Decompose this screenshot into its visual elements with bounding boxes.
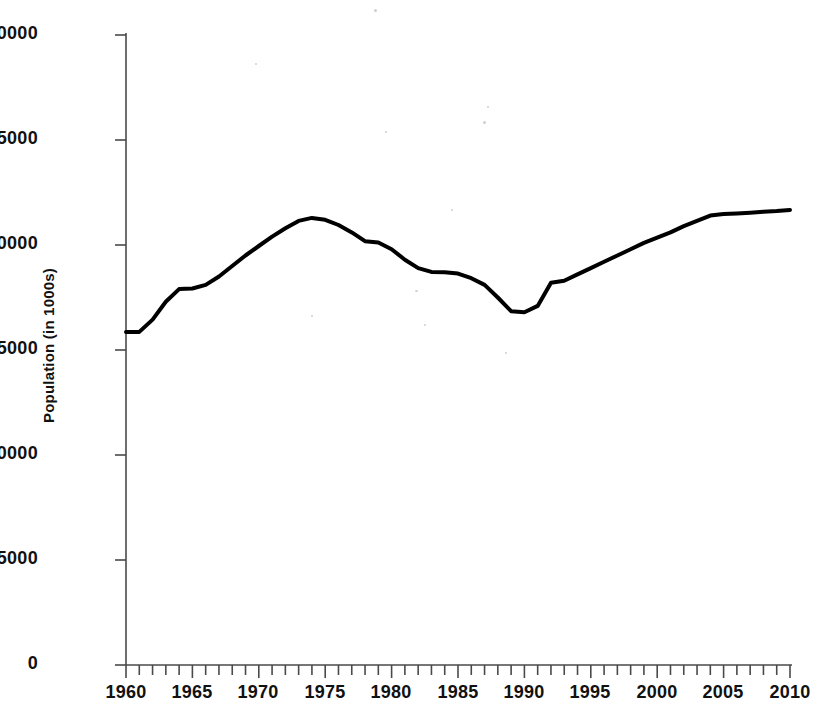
scan-speck: [311, 315, 313, 317]
scan-speck: [451, 209, 453, 211]
plot-area: [0, 0, 828, 722]
scan-speck: [415, 290, 418, 292]
line-chart: Population (in 1000s) 30000 25000 20000 …: [0, 0, 828, 722]
x-axis-ticks: [126, 665, 790, 678]
series-line-population: [126, 210, 790, 332]
scan-speck: [487, 106, 489, 108]
scan-speck: [255, 63, 257, 65]
scan-speck: [424, 324, 426, 326]
scan-speck: [385, 131, 387, 133]
scan-speck: [505, 352, 507, 354]
scan-speck: [374, 9, 377, 12]
y-axis-ticks: [115, 35, 126, 665]
scan-speck: [483, 121, 486, 124]
